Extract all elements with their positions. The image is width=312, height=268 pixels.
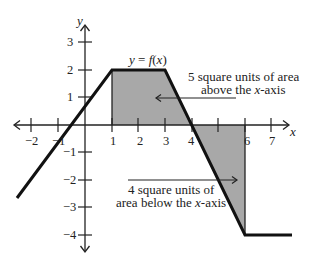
- y-tick-label: 3: [67, 35, 73, 49]
- y-tick-label: 1: [67, 90, 73, 104]
- function-label: y = f(x): [127, 52, 167, 67]
- y-tick-label: −1: [63, 145, 76, 159]
- y-axis: [78, 25, 92, 252]
- x-tick-label: 4: [188, 134, 195, 148]
- y-tick-label: 2: [67, 63, 73, 77]
- annotation-above-line2: above the x-axis: [201, 82, 285, 97]
- function-area-chart: y x −2 −1 1 2 3 4 6 7 3 2 1 −1 −2 −3 −4 …: [0, 0, 312, 268]
- x-tick-label: 1: [110, 134, 116, 148]
- x-axis-label: x: [289, 124, 296, 139]
- x-tick-label: −2: [25, 134, 38, 148]
- x-tick-label: 2: [137, 134, 143, 148]
- x-tick-label: 3: [163, 134, 169, 148]
- y-tick-label: −2: [63, 173, 76, 187]
- x-tick-label: 7: [269, 134, 275, 148]
- annotation-below-line2: area below the x-axis: [116, 195, 226, 210]
- y-tick-label: −3: [63, 200, 76, 214]
- y-axis-label: y: [75, 13, 83, 28]
- y-tick-label: −4: [63, 228, 77, 242]
- x-tick-label: 6: [244, 134, 250, 148]
